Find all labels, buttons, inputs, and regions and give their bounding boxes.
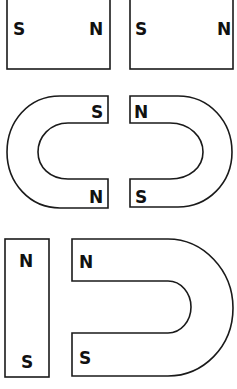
pole-label: N	[79, 252, 93, 272]
pole-label: N	[89, 187, 103, 207]
pole-label: N	[89, 19, 103, 39]
bar-magnet-top-right: S N	[130, 0, 233, 69]
pole-label: N	[19, 251, 33, 271]
pole-label: N	[134, 102, 148, 122]
pole-label: N	[217, 19, 231, 39]
magnets-diagram: S N S N S N N S N S N S	[0, 0, 237, 389]
pole-label: S	[21, 352, 33, 372]
pole-label: S	[135, 19, 147, 39]
horseshoe-magnet-right: N S	[130, 96, 232, 207]
pole-label: S	[91, 102, 103, 122]
pole-label: S	[79, 348, 91, 368]
bar-magnet-top-left: S N	[7, 0, 110, 69]
horseshoe-magnet-left: S N	[7, 96, 108, 208]
bar-magnet-vertical: N S	[5, 239, 49, 377]
horseshoe-magnet-bottom: N S	[72, 239, 233, 376]
pole-label: S	[135, 187, 147, 207]
pole-label: S	[13, 19, 25, 39]
